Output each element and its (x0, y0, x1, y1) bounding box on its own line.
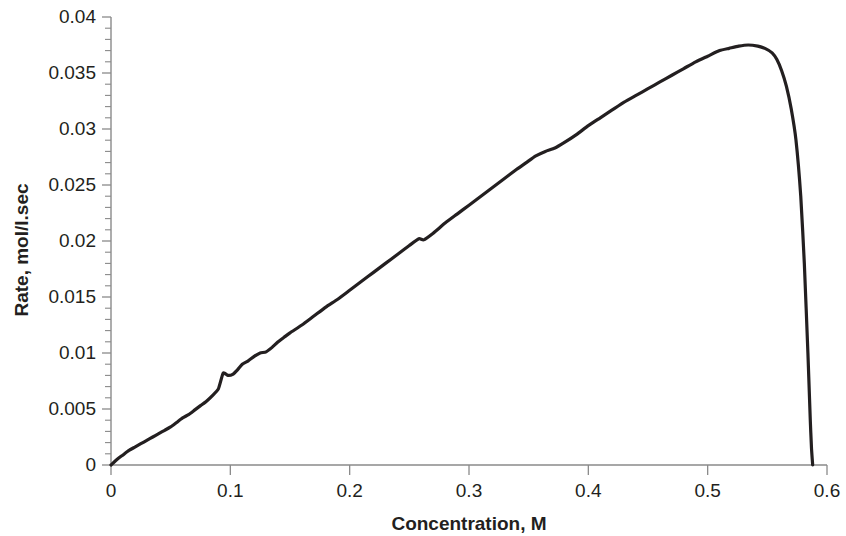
y-tick-label: 0 (85, 455, 96, 474)
y-tick-label: 0.02 (59, 231, 96, 250)
rate-vs-concentration-curve (111, 45, 813, 465)
chart-plot-area: Rate, mol/l.sec Concentration, M (0, 0, 846, 536)
y-tick-label: 0.015 (48, 287, 96, 306)
x-tick-label: 0.1 (200, 481, 260, 500)
x-tick-label: 0 (81, 481, 141, 500)
x-axis-title: Concentration, M (391, 513, 546, 534)
y-tick-label: 0.025 (48, 175, 96, 194)
x-tick-label: 0.3 (439, 481, 499, 500)
x-tick-label: 0.4 (558, 481, 618, 500)
y-axis-title: Rate, mol/l.sec (11, 183, 32, 316)
y-tick-label: 0.005 (48, 399, 96, 418)
y-tick-label: 0.01 (59, 343, 96, 362)
y-tick-label: 0.03 (59, 119, 96, 138)
y-tick-label: 0.035 (48, 63, 96, 82)
x-tick-label: 0.5 (678, 481, 738, 500)
chart-container: Rate, mol/l.sec Concentration, M 00.0050… (0, 0, 846, 536)
x-tick-label: 0.6 (797, 481, 846, 500)
x-tick-label: 0.2 (320, 481, 380, 500)
y-tick-label: 0.04 (59, 7, 96, 26)
x-axis-major-ticks (111, 465, 827, 475)
